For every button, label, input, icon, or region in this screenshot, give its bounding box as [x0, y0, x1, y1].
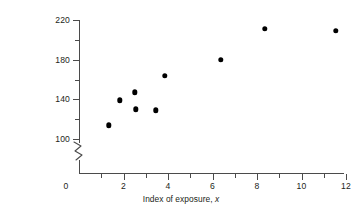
x-axis-label-text: Index of exposure,: [143, 194, 215, 204]
x-axis-label-variable: x: [215, 194, 219, 204]
data-point: [132, 90, 137, 95]
data-point-layer: [0, 0, 362, 214]
scatter-plot-figure: Cancer deaths per 100,000 person-years (…: [0, 0, 362, 214]
data-point: [133, 107, 138, 112]
x-axis-label: Index of exposure, x: [0, 194, 362, 204]
data-point: [106, 122, 111, 127]
data-point: [162, 73, 167, 78]
data-point: [117, 98, 122, 103]
data-point: [218, 57, 223, 62]
data-point: [333, 28, 338, 33]
data-point: [153, 108, 158, 113]
data-point: [262, 26, 267, 31]
